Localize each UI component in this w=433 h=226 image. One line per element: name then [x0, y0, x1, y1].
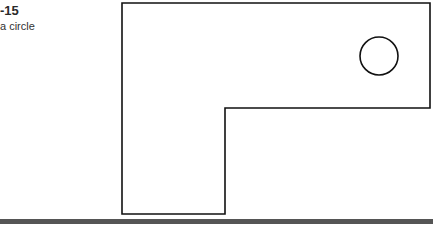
l-shape-drawing — [0, 0, 433, 226]
circle-hole — [360, 37, 398, 75]
bottom-rule — [0, 219, 433, 224]
l-shape-outline — [122, 3, 430, 214]
